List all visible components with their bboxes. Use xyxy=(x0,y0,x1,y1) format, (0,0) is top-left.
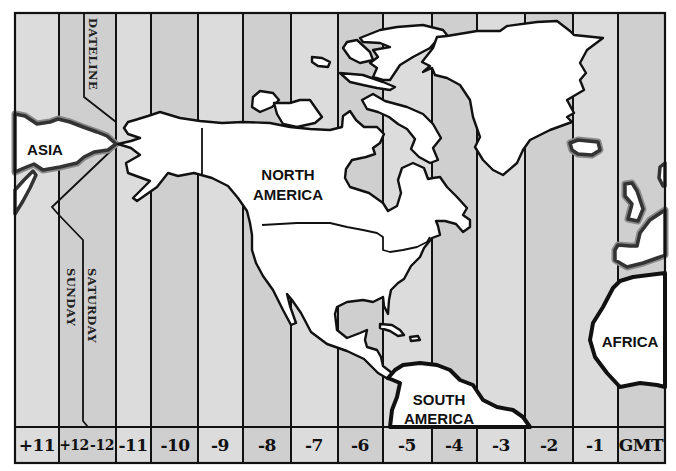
timezone-stripe xyxy=(116,13,151,463)
north-america-label-line1: NORTH xyxy=(261,166,314,183)
timezone-label: -5 xyxy=(398,435,416,455)
north-america-label-line2: AMERICA xyxy=(253,186,323,203)
time-zone-map: ASIA NORTH AMERICA SOUTH AMERICA AFRICA … xyxy=(0,0,676,471)
timezone-label: -3 xyxy=(492,435,510,455)
timezone-label: -12 xyxy=(90,437,114,453)
timezone-label: +11 xyxy=(19,435,55,455)
timezone-label: -11 xyxy=(118,435,147,455)
saturday-label: SATURDAY xyxy=(85,268,99,344)
africa-label: AFRICA xyxy=(602,333,659,350)
south-america-label-line1: SOUTH xyxy=(413,391,466,408)
asia-label: ASIA xyxy=(27,141,63,158)
timezone-label: -9 xyxy=(211,435,229,455)
sunday-label: SUNDAY xyxy=(64,268,78,327)
timezone-label: -8 xyxy=(258,435,276,455)
timezone-label: -6 xyxy=(351,435,369,455)
timezone-stripe xyxy=(15,13,59,463)
south-america-label-line2: AMERICA xyxy=(404,410,474,427)
timezone-label: -7 xyxy=(305,435,323,455)
timezone-label: +12 xyxy=(59,437,89,453)
timezone-label: GMT xyxy=(619,435,664,455)
iceland xyxy=(570,140,600,155)
dateline-label: DATELINE xyxy=(86,18,100,90)
timezone-label: -4 xyxy=(445,435,464,455)
timezone-stripe xyxy=(198,13,243,463)
timezone-stripe xyxy=(151,13,198,463)
timezone-label: -1 xyxy=(586,435,604,455)
timezone-label: -2 xyxy=(540,435,558,455)
timezone-label: -10 xyxy=(160,435,190,455)
hispaniola xyxy=(410,336,420,341)
